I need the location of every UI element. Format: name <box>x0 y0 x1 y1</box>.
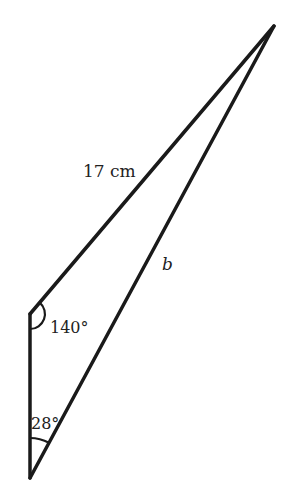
angle-arc-28 <box>30 438 49 443</box>
triangle-edges <box>30 26 274 478</box>
label-angle-140: 140° <box>50 318 89 337</box>
side-b <box>30 26 274 478</box>
label-side-b: b <box>162 254 173 274</box>
label-side-17cm: 17 cm <box>83 161 136 181</box>
label-angle-28: 28° <box>31 414 59 433</box>
triangle-diagram: 17 cm b 140° 28° <box>0 0 291 497</box>
side-17cm <box>30 26 274 314</box>
